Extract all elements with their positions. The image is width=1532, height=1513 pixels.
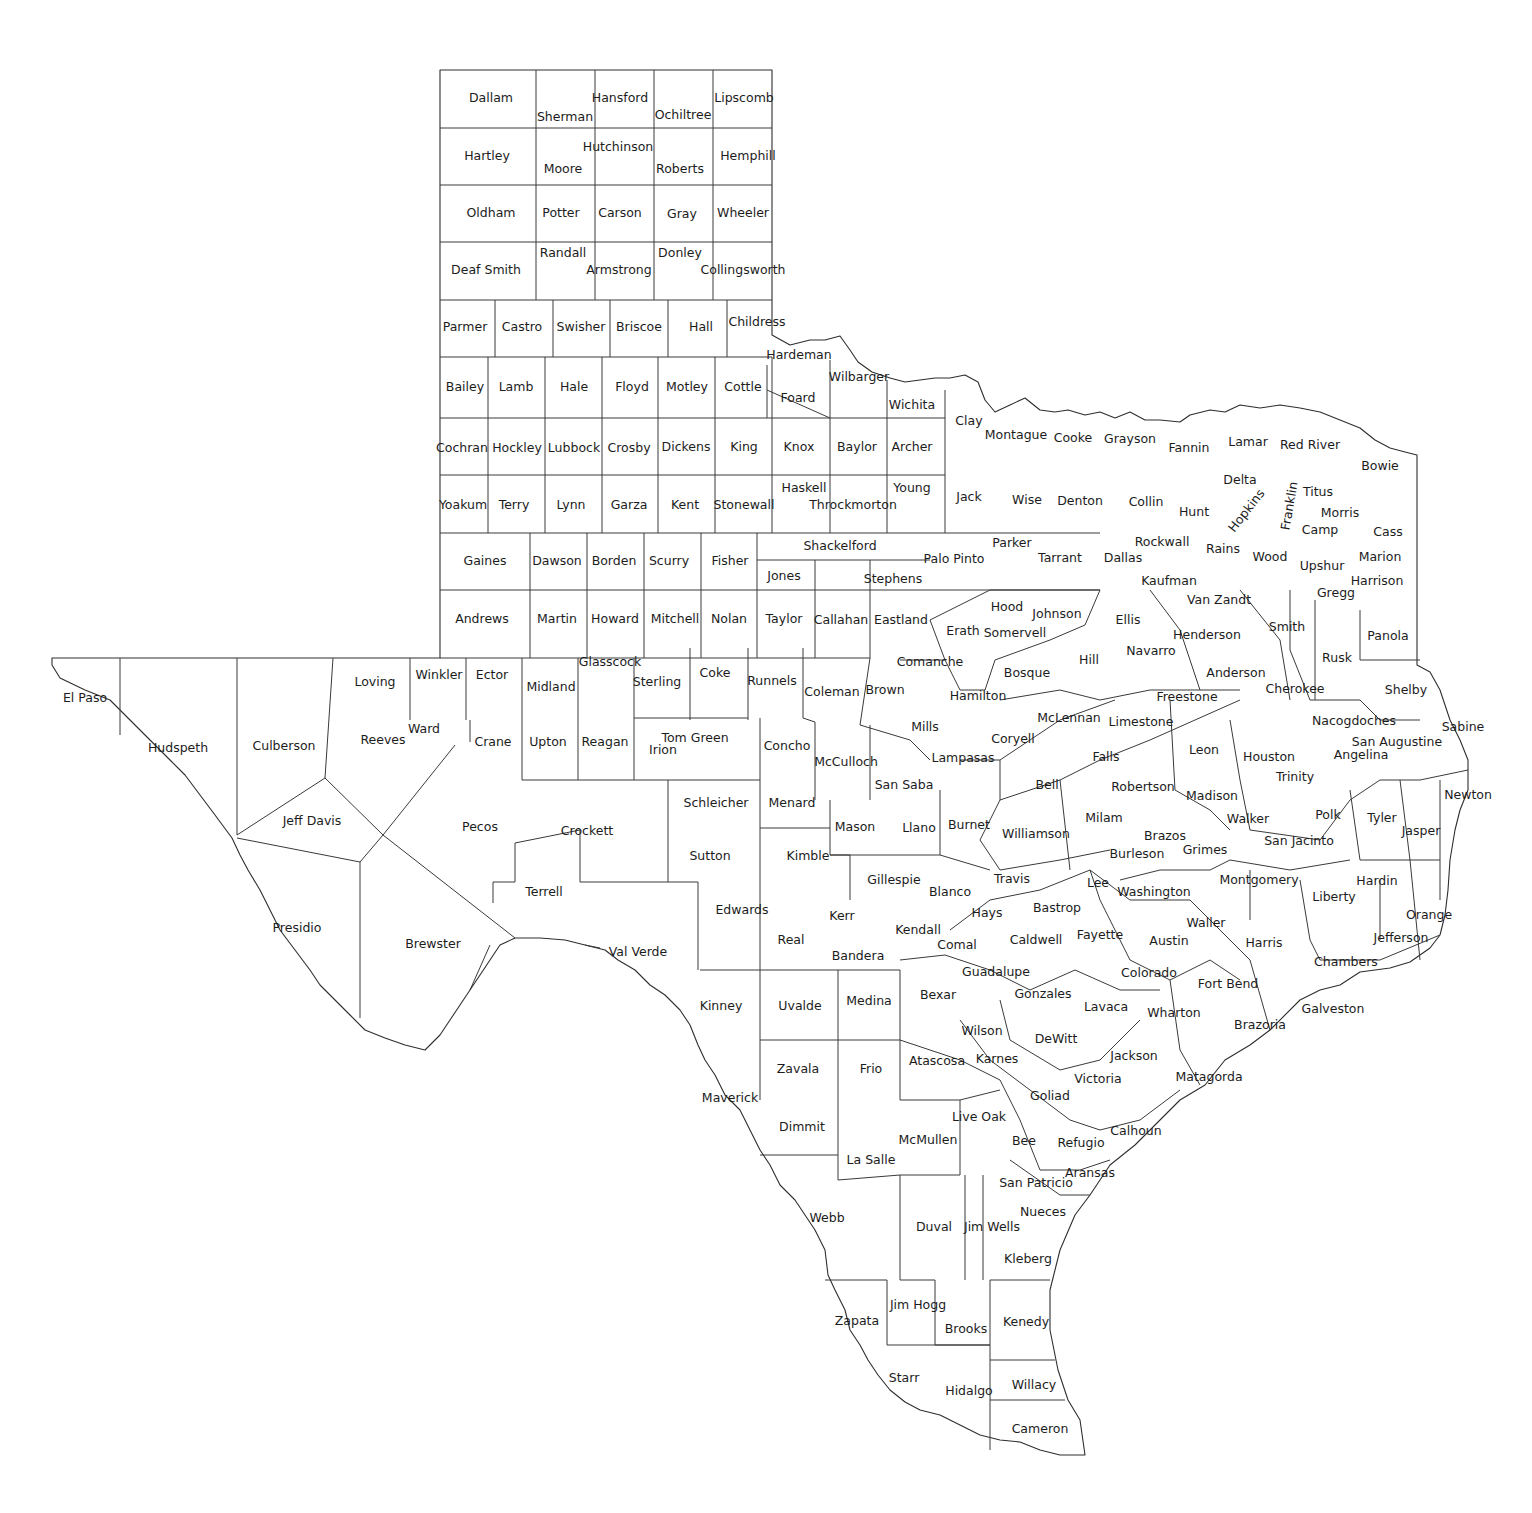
county-label: Angelina	[1334, 747, 1389, 762]
county-label: Hill	[1079, 652, 1099, 667]
county-label: Hudspeth	[148, 740, 208, 755]
county-label: Brazoria	[1234, 1017, 1286, 1032]
county-label: Lubbock	[548, 440, 601, 455]
county-label: Crosby	[607, 440, 651, 455]
county-label: Jefferson	[1373, 930, 1429, 945]
county-label: Brazos	[1144, 828, 1186, 843]
county-label: Sherman	[537, 109, 593, 124]
county-label: Midland	[526, 679, 575, 694]
county-label: Waller	[1187, 915, 1227, 930]
county-label: Bandera	[832, 948, 885, 963]
county-label: Childress	[728, 314, 785, 329]
county-label: McLennan	[1037, 710, 1101, 725]
county-label: Baylor	[837, 439, 878, 454]
county-label: Fayette	[1077, 927, 1124, 942]
county-label: Cameron	[1012, 1421, 1069, 1436]
county-label: Zapata	[835, 1313, 879, 1328]
county-label: Foard	[781, 390, 816, 405]
county-label: Hamilton	[950, 688, 1007, 703]
county-label: Floyd	[615, 379, 649, 394]
county-label: Kerr	[829, 908, 855, 923]
county-label: Lavaca	[1084, 999, 1128, 1014]
county-label: Medina	[846, 993, 891, 1008]
county-label: Lynn	[556, 497, 585, 512]
county-label: Hale	[560, 379, 589, 394]
county-label: Randall	[540, 245, 587, 260]
county-label: Austin	[1149, 933, 1188, 948]
county-label: Robertson	[1111, 779, 1175, 794]
county-label: Wise	[1012, 492, 1042, 507]
county-label: Live Oak	[952, 1109, 1007, 1124]
county-label: Dimmit	[779, 1119, 825, 1134]
county-label: Upton	[529, 734, 567, 749]
county-label: Pecos	[462, 819, 498, 834]
county-label: Chambers	[1314, 954, 1378, 969]
county-label: Zavala	[777, 1061, 819, 1076]
county-label: Terry	[498, 497, 530, 512]
county-label: Llano	[902, 820, 936, 835]
county-label: Jack	[955, 489, 982, 504]
county-label: Camp	[1302, 522, 1339, 537]
county-label: Trinity	[1275, 769, 1315, 784]
county-label: Karnes	[976, 1051, 1019, 1066]
county-label: Real	[778, 932, 805, 947]
county-label: Menard	[769, 795, 816, 810]
county-label: Tom Green	[660, 730, 728, 745]
county-label: Castro	[502, 319, 542, 334]
county-label: Kenedy	[1003, 1314, 1050, 1329]
county-label: Tarrant	[1037, 550, 1082, 565]
county-label: Coke	[700, 665, 731, 680]
county-label: Lamb	[499, 379, 534, 394]
county-label: Mitchell	[651, 611, 700, 626]
county-label: Bosque	[1004, 665, 1051, 680]
county-label: Kleberg	[1004, 1251, 1052, 1266]
county-label: Wood	[1253, 549, 1288, 564]
county-label: Cooke	[1054, 430, 1093, 445]
county-label: Jasper	[1401, 823, 1441, 838]
county-label: Comanche	[897, 654, 964, 669]
county-label: Potter	[542, 205, 580, 220]
county-label: Somervell	[984, 625, 1047, 640]
county-label: Harrison	[1351, 573, 1404, 588]
county-label: Matagorda	[1175, 1069, 1242, 1084]
county-label: Stonewall	[714, 497, 775, 512]
county-label: Walker	[1227, 811, 1270, 826]
county-label: Borden	[592, 553, 637, 568]
county-label: Milam	[1085, 810, 1123, 825]
county-label: Edwards	[715, 902, 768, 917]
county-label: Gray	[667, 206, 697, 221]
county-label: La Salle	[847, 1152, 896, 1167]
county-label: Gregg	[1317, 585, 1355, 600]
county-label: Callahan	[814, 612, 869, 627]
county-label: Donley	[658, 245, 702, 260]
county-label: Mason	[835, 819, 876, 834]
county-label: Limestone	[1109, 714, 1174, 729]
county-label: Crockett	[561, 823, 613, 838]
county-label: San Patricio	[999, 1175, 1073, 1190]
county-label: Tyler	[1366, 810, 1397, 825]
county-label: Calhoun	[1110, 1123, 1161, 1138]
county-label: Parker	[992, 535, 1032, 550]
county-label: Bexar	[920, 987, 957, 1002]
county-label: Hemphill	[720, 148, 776, 163]
county-label: Orange	[1406, 907, 1452, 922]
county-label: Marion	[1359, 549, 1402, 564]
county-label: Frio	[860, 1061, 883, 1076]
county-label: Motley	[666, 379, 708, 394]
county-label: Wilson	[961, 1023, 1002, 1038]
county-label: Rusk	[1322, 650, 1353, 665]
county-label: Kaufman	[1141, 573, 1197, 588]
county-label: Andrews	[455, 611, 509, 626]
county-label: Throckmorton	[808, 497, 897, 512]
county-label: Deaf Smith	[451, 262, 521, 277]
county-label: Palo Pinto	[924, 551, 985, 566]
county-label: Duval	[916, 1219, 952, 1234]
county-label: Carson	[598, 205, 642, 220]
county-label: Newton	[1444, 787, 1492, 802]
county-label: Jeff Davis	[282, 813, 342, 828]
county-label: Burnet	[948, 817, 990, 832]
county-label: Stephens	[864, 571, 923, 586]
county-label: Wheeler	[717, 205, 770, 220]
county-label: Van Zandt	[1187, 592, 1251, 607]
county-label: Hunt	[1179, 504, 1209, 519]
